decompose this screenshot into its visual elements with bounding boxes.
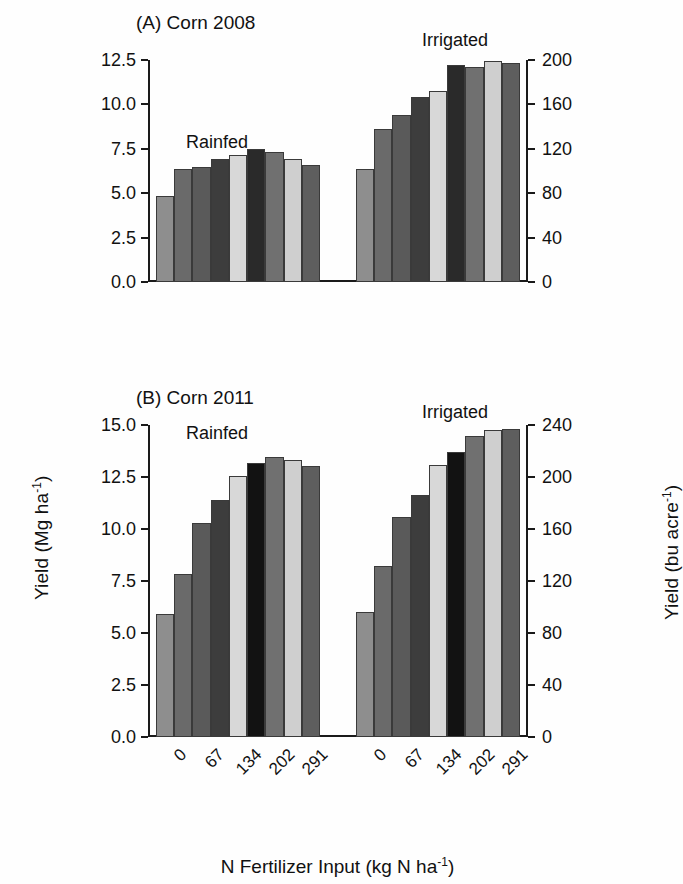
bar-rainfed-0 (156, 196, 174, 282)
bar-irrigated-7 (484, 61, 502, 282)
panel-b-irrigated-label: Irrigated (422, 402, 488, 423)
y-tick-right (528, 59, 535, 61)
bar-irrigated-5 (447, 452, 465, 737)
bar-irrigated-6 (465, 436, 483, 737)
y-tick-left (141, 528, 148, 530)
bar-rainfed-0 (156, 614, 174, 737)
bar-rainfed-1 (174, 169, 192, 282)
y-tick-label-right: 80 (542, 184, 602, 202)
y-tick-right (528, 684, 535, 686)
y-tick-label-left: 10.0 (68, 95, 136, 113)
x-tick-label-rainfed-3: 202 (265, 745, 299, 779)
y-tick-left (141, 103, 148, 105)
y-tick-label-left: 2.5 (68, 676, 136, 694)
bar-irrigated-6 (465, 67, 483, 282)
bar-rainfed-7 (284, 159, 302, 282)
x-tick-label-rainfed-4: 291 (298, 745, 332, 779)
y-tick-label-left: 10.0 (68, 520, 136, 538)
bar-rainfed-2 (192, 523, 210, 737)
y-tick-left (141, 632, 148, 634)
y-tick-label-left: 12.5 (68, 51, 136, 69)
y-tick-label-right: 40 (542, 676, 602, 694)
y-tick-right (528, 736, 535, 738)
y-tick-label-left: 0.0 (68, 728, 136, 746)
y-tick-label-left: 0.0 (68, 273, 136, 291)
y-tick-left (141, 148, 148, 150)
bar-rainfed-2 (192, 167, 210, 282)
y-tick-label-right: 240 (542, 416, 602, 434)
bar-irrigated-4 (429, 91, 447, 282)
bar-irrigated-2 (392, 115, 410, 282)
bar-irrigated-3 (411, 97, 429, 282)
bar-irrigated-2 (392, 517, 410, 737)
panel-b-title: (B) Corn 2011 (136, 387, 254, 409)
bar-irrigated-1 (374, 566, 392, 737)
y-tick-right (528, 281, 535, 283)
panel-a: (A) Corn 2008 Rainfed Irrigated 0.02.55.… (0, 0, 675, 375)
y-tick-label-left: 15.0 (68, 416, 136, 434)
bar-rainfed-4 (229, 155, 247, 282)
x-tick-label-rainfed-2: 134 (232, 745, 266, 779)
y-tick-label-right: 0 (542, 273, 602, 291)
y-tick-label-right: 160 (542, 520, 602, 538)
y-tick-right (528, 103, 535, 105)
y-tick-label-right: 200 (542, 468, 602, 486)
bar-irrigated-8 (502, 63, 520, 282)
y-tick-right (528, 580, 535, 582)
bar-irrigated-5 (447, 65, 465, 282)
bar-rainfed-4 (229, 476, 247, 737)
panel-b: (B) Corn 2011 Rainfed Irrigated 0.02.55.… (0, 375, 675, 795)
y-tick-label-right: 40 (542, 229, 602, 247)
y-tick-right (528, 528, 535, 530)
y-tick-right (528, 476, 535, 478)
panel-a-plot-area: 0.02.55.07.510.012.504080120160200 (148, 60, 528, 282)
x-tick-label-rainfed-0: 0 (170, 745, 191, 766)
y-tick-label-left: 5.0 (68, 624, 136, 642)
panel-b-plot-area: 0.02.55.07.510.012.515.00408012016020024… (148, 425, 528, 737)
bar-rainfed-3 (211, 500, 229, 737)
y-tick-label-right: 120 (542, 572, 602, 590)
y-tick-left (141, 476, 148, 478)
x-tick-label-irrigated-4: 291 (498, 745, 532, 779)
y-tick-left (141, 237, 148, 239)
panel-a-irrigated-label: Irrigated (422, 30, 488, 51)
bar-rainfed-1 (174, 574, 192, 737)
y-tick-label-right: 200 (542, 51, 602, 69)
bar-irrigated-4 (429, 465, 447, 737)
bar-irrigated-3 (411, 495, 429, 737)
y-tick-label-right: 0 (542, 728, 602, 746)
y-tick-label-left: 7.5 (68, 572, 136, 590)
y-tick-right (528, 237, 535, 239)
x-tick-label-irrigated-3: 202 (465, 745, 499, 779)
y-axis-right-line (526, 60, 528, 282)
bar-rainfed-6 (265, 152, 283, 282)
bar-rainfed-3 (211, 159, 229, 282)
y-tick-left (141, 736, 148, 738)
y-tick-left (141, 580, 148, 582)
y-tick-label-left: 12.5 (68, 468, 136, 486)
y-tick-right (528, 192, 535, 194)
x-tick-label-irrigated-2: 134 (432, 745, 466, 779)
y-tick-right (528, 632, 535, 634)
y-tick-label-left: 7.5 (68, 140, 136, 158)
y-tick-label-left: 5.0 (68, 184, 136, 202)
y-tick-right (528, 424, 535, 426)
y-tick-left (141, 59, 148, 61)
bar-irrigated-0 (356, 169, 374, 282)
x-tick-label-irrigated-1: 67 (401, 745, 429, 773)
bar-rainfed-5 (247, 463, 265, 737)
bar-rainfed-7 (284, 460, 302, 737)
bar-rainfed-6 (265, 457, 283, 737)
y-tick-left (141, 424, 148, 426)
bar-irrigated-1 (374, 129, 392, 282)
y-tick-left (141, 281, 148, 283)
panel-a-title: (A) Corn 2008 (136, 12, 255, 34)
bar-rainfed-8 (302, 466, 320, 737)
bar-irrigated-0 (356, 612, 374, 737)
y-tick-left (141, 192, 148, 194)
bar-rainfed-5 (247, 149, 265, 282)
y-tick-label-right: 160 (542, 95, 602, 113)
bar-irrigated-7 (484, 430, 502, 737)
bar-rainfed-8 (302, 165, 320, 282)
